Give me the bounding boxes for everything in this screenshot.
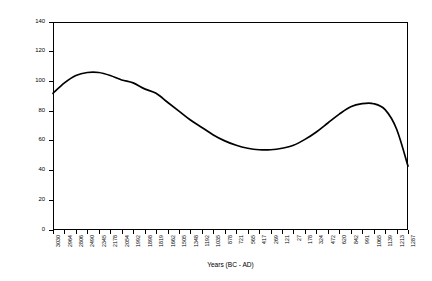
pollen-percentage-chart: Arboreal/Non-Arboreal Pollen % 020406080…	[0, 0, 432, 281]
x-axis-title: Years (BC - AD)	[53, 261, 408, 268]
pollen-curve-svg	[0, 0, 432, 281]
pollen-curve-line	[53, 72, 408, 166]
